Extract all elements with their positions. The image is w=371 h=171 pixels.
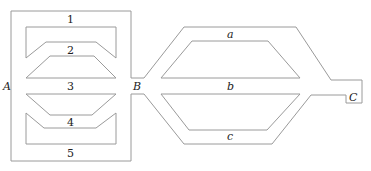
node-label-c: C bbox=[349, 91, 358, 104]
island-3-4 bbox=[26, 94, 116, 115]
node-label-a: A bbox=[2, 80, 11, 93]
island-2-3 bbox=[26, 56, 116, 78]
channel-label-1: 1 bbox=[67, 13, 74, 26]
channel-label-3: 3 bbox=[67, 80, 74, 93]
island-a-b bbox=[161, 41, 300, 78]
channel-label-5: 5 bbox=[67, 147, 74, 160]
island-b-c bbox=[161, 94, 300, 130]
channel-label-a: a bbox=[227, 28, 234, 41]
channel-label-c: c bbox=[227, 130, 233, 143]
channel-label-2: 2 bbox=[67, 44, 74, 57]
node-label-b: B bbox=[132, 80, 141, 93]
channel-label-b: b bbox=[227, 80, 234, 93]
channel-label-4: 4 bbox=[67, 116, 74, 129]
flow-network-diagram: A B C 1 2 3 4 5 a b c bbox=[0, 0, 371, 171]
right-upper-wall bbox=[131, 27, 362, 144]
